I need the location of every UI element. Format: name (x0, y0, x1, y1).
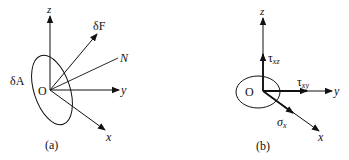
normal-label: N (119, 51, 129, 65)
z-axis-label: z (259, 5, 265, 17)
origin-label: O (245, 85, 254, 99)
z-axis-label: z (46, 3, 52, 15)
tau-xz-label: τxz (268, 51, 280, 66)
panel-b: z y x O τxz τxy σx (b) (236, 5, 340, 153)
x-axis-label: x (317, 130, 324, 144)
area-label: δA (10, 74, 25, 88)
normal-line (50, 58, 118, 90)
area-element-ellipse (236, 76, 280, 108)
panel-a: z δF N y x O δA (a) (10, 3, 129, 152)
panel-a-caption: (a) (45, 138, 58, 152)
panel-b-caption: (b) (256, 139, 270, 153)
sigma-x-label: σx (277, 115, 287, 130)
y-axis-label: y (333, 84, 340, 98)
stress-diagram: z δF N y x O δA (a) z y x O τxz τxy (0, 0, 349, 160)
force-label: δF (93, 19, 106, 33)
tau-xy-label: τxy (297, 75, 309, 90)
y-axis-label: y (120, 83, 127, 97)
x-axis-label: x (105, 130, 112, 144)
x-axis (50, 90, 105, 130)
origin-label: O (38, 84, 47, 98)
sigma-x-arrow (263, 91, 293, 113)
